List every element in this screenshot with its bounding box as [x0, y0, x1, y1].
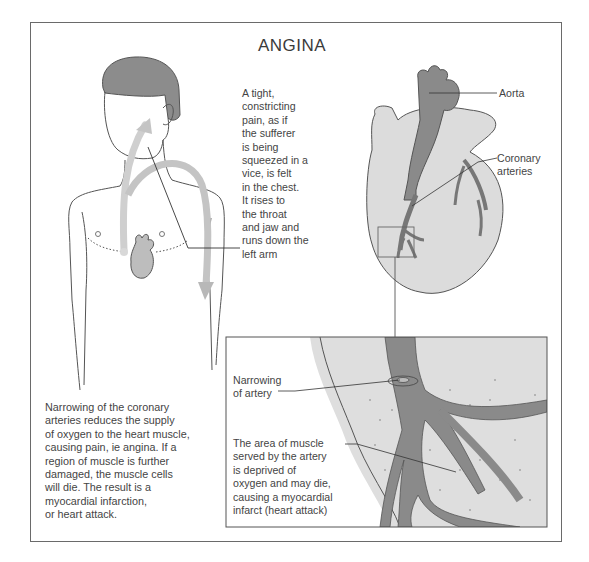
figure-title: ANGINA: [258, 36, 326, 56]
human-figure: [69, 57, 225, 390]
figure-caption: Narrowing of the coronary arteries reduc…: [45, 401, 190, 522]
aorta-label: Aorta: [499, 87, 524, 100]
heart-illustration: [367, 66, 503, 337]
hair: [103, 57, 180, 120]
deprived-area-label: The area of muscle served by the artery …: [233, 437, 333, 517]
narrowing-label: Narrowing of artery: [233, 374, 281, 401]
coronary-arteries-label: Coronary arteries: [497, 152, 541, 179]
pain-description: A tight, constricting pain, as if the su…: [242, 87, 309, 261]
chest-heart: [131, 234, 154, 278]
